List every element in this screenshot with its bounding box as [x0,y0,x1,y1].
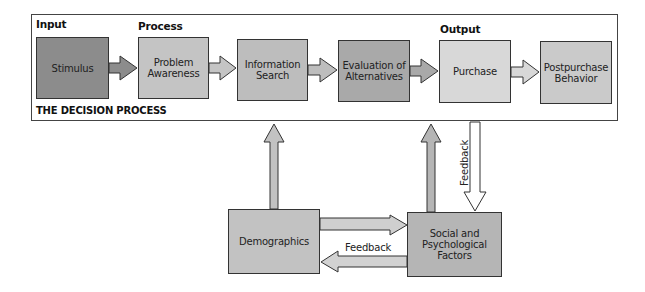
stage-label: Problem Awareness [148,57,200,79]
arrow-purchase-to-postpurchase [511,60,539,84]
stage-label: Purchase [453,66,497,77]
arrow-evaluation-to-purchase [410,59,438,83]
stage-purchase: Purchase [439,40,511,103]
stage-label: Information Search [245,59,301,81]
arrow-demographics-up [264,124,284,209]
stage-stimulus: Stimulus [36,37,109,99]
arrow-stimulus-to-problem [109,56,137,80]
influence-label: Social and Psychological Factors [422,228,487,261]
arrow-search-to-evaluation [308,58,337,82]
feedback-label-horizontal: Feedback [345,242,391,253]
stage-information-search: Information Search [237,39,308,101]
arrow-demographics-to-social [320,215,407,235]
stage-evaluation-of-alternatives: Evaluation of Alternatives [338,40,410,102]
stage-label: Evaluation of Alternatives [343,60,406,82]
arrow-social-to-demographics [321,251,407,272]
stage-label: Stimulus [52,63,94,74]
influence-label: Demographics [239,236,309,247]
arrow-problem-to-search [209,56,236,80]
stage-problem-awareness: Problem Awareness [138,37,209,99]
arrow-social-up [421,124,441,212]
feedback-label-vertical: Feedback [459,140,470,186]
influence-demographics: Demographics [228,209,320,274]
influence-social-psychological: Social and Psychological Factors [407,212,502,277]
stage-postpurchase-behavior: Postpurchase Behavior [540,41,612,104]
stage-label: Postpurchase Behavior [544,62,608,84]
